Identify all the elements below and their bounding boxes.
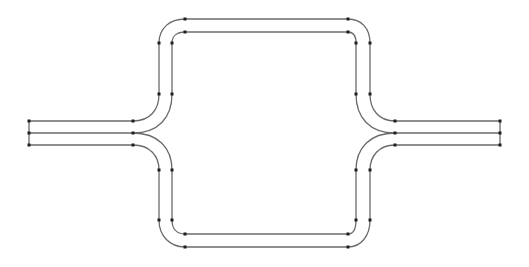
node-marker [171, 169, 174, 172]
node-marker [347, 18, 350, 21]
node-marker [499, 120, 502, 123]
node-marker [158, 169, 161, 172]
inner-bottom-left-corner [172, 220, 185, 234]
node-marker [499, 144, 502, 147]
node-marker [171, 219, 174, 222]
node-marker [171, 42, 174, 45]
right-junction-middle-down-curve [356, 133, 395, 170]
left-junction-top-curve [133, 94, 159, 121]
node-marker [158, 219, 161, 222]
node-marker [158, 93, 161, 96]
node-marker [369, 219, 372, 222]
node-marker [394, 144, 397, 147]
node-marker [369, 93, 372, 96]
node-marker [184, 18, 187, 21]
left-junction-bottom-curve [133, 145, 159, 170]
node-marker [369, 169, 372, 172]
track-diagram [0, 0, 529, 267]
node-marker [355, 42, 358, 45]
node-marker [394, 120, 397, 123]
track-lines [29, 19, 500, 247]
node-marker [355, 219, 358, 222]
node-marker [394, 132, 397, 135]
right-junction-middle-up-curve [356, 94, 395, 133]
node-marker [184, 233, 187, 236]
node-marker [499, 132, 502, 135]
node-marker [347, 31, 350, 34]
node-marker [184, 246, 187, 249]
right-junction-bottom-curve [370, 145, 395, 170]
node-marker [132, 144, 135, 147]
node-marker [158, 42, 161, 45]
outer-top-right-corner [348, 19, 370, 43]
node-marker [369, 42, 372, 45]
node-marker [347, 246, 350, 249]
node-marker [355, 93, 358, 96]
node-marker [355, 169, 358, 172]
node-marker [132, 120, 135, 123]
node-marker [347, 233, 350, 236]
node-marker [171, 93, 174, 96]
inner-top-right-corner [348, 32, 356, 43]
inner-top-left-corner [172, 32, 185, 43]
node-marker [28, 120, 31, 123]
node-marker [28, 132, 31, 135]
node-marker [132, 132, 135, 135]
right-junction-top-curve [370, 94, 395, 121]
inner-bottom-right-corner [348, 220, 356, 234]
node-marker [184, 31, 187, 34]
node-marker [28, 144, 31, 147]
